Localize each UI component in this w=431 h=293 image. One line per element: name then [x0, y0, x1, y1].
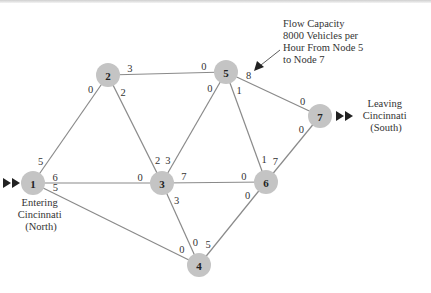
capacity-label-6-7-to: 0	[299, 124, 304, 135]
callout-line-3: Hour From Node 5	[283, 42, 363, 53]
capacity-label-2-5-from: 3	[127, 63, 132, 74]
edge-6-7	[266, 116, 320, 182]
leaving-arrow-icon	[336, 111, 353, 121]
entering-label: Entering Cincinnati (North)	[18, 197, 64, 233]
entering-line-2: Cincinnati	[18, 209, 62, 220]
callout-line-1: Flow Capacity	[283, 18, 345, 29]
node-6: 6	[254, 170, 278, 194]
node-label: 7	[317, 111, 323, 123]
capacity-label-4-6-to: 0	[245, 190, 250, 201]
entering-line-1: Entering	[22, 197, 59, 208]
capacity-label-5-7-from: 8	[246, 70, 251, 81]
capacity-label-5-6-to: 1	[261, 154, 266, 165]
leaving-line-2: Cincinnati	[363, 110, 407, 121]
edge-2-5	[108, 72, 226, 75]
capacity-label-1-4-to: 0	[179, 244, 184, 255]
node-label: 6	[263, 177, 269, 189]
capacity-label-3-6-to: 0	[241, 171, 246, 182]
capacity-label-1-4-from: 5	[53, 182, 58, 193]
callout-line-4: to Node 7	[283, 54, 324, 65]
entering-line-3: (North)	[25, 221, 57, 233]
capacity-label-4-6-from: 5	[205, 239, 210, 250]
node-3: 3	[150, 171, 174, 195]
node-1: 1	[21, 171, 45, 195]
edge-4-6	[199, 182, 266, 265]
leaving-line-3: (South)	[370, 122, 402, 134]
capacity-label-3-4-to: 0	[193, 237, 198, 248]
capacity-label-2-3-to: 2	[155, 155, 160, 166]
capacity-label-1-3-from: 6	[52, 172, 57, 183]
entering-arrow-icon	[3, 178, 20, 188]
capacity-label-5-6-from: 1	[237, 85, 242, 96]
node-2: 2	[96, 63, 120, 87]
capacity-label-2-5-to: 0	[201, 61, 206, 72]
capacity-label-3-6-from: 7	[181, 171, 186, 182]
capacity-label-3-5-from: 3	[165, 155, 170, 166]
edge-3-5	[162, 72, 226, 183]
edge-1-2	[33, 75, 108, 183]
node-label: 5	[223, 67, 229, 79]
edge-3-6	[162, 182, 266, 183]
capacity-label-6-7-from: 7	[273, 156, 278, 167]
capacity-label-2-3-from: 2	[121, 87, 126, 98]
capacity-label-3-5-to: 0	[207, 83, 212, 94]
capacity-label-1-3-to: 0	[137, 172, 142, 183]
capacity-label-5-7-to: 0	[300, 96, 305, 107]
node-label: 3	[159, 178, 165, 190]
edge-2-3	[108, 75, 162, 183]
capacity-label-3-4-from: 3	[174, 195, 179, 206]
node-label: 4	[196, 260, 202, 272]
node-5: 5	[214, 60, 238, 84]
capacity-label-1-2-from: 5	[38, 156, 43, 167]
callout-arrow-icon	[254, 50, 280, 71]
leaving-line-1: Leaving	[367, 98, 402, 109]
node-label: 2	[105, 70, 111, 82]
node-4: 4	[187, 253, 211, 277]
edges-layer	[33, 72, 320, 265]
leaving-label: Leaving Cincinnati (South)	[363, 98, 409, 134]
network-diagram: 506050223030703050118070 1234567 Flow Ca…	[0, 0, 431, 293]
node-7: 7	[308, 104, 332, 128]
capacity-label-1-2-to: 0	[88, 84, 93, 95]
node-label: 1	[30, 178, 36, 190]
callout-line-2: 8000 Vehicles per	[283, 30, 359, 41]
callout-text: Flow Capacity 8000 Vehicles per Hour Fro…	[283, 18, 366, 65]
nodes-layer: 1234567	[21, 60, 332, 277]
